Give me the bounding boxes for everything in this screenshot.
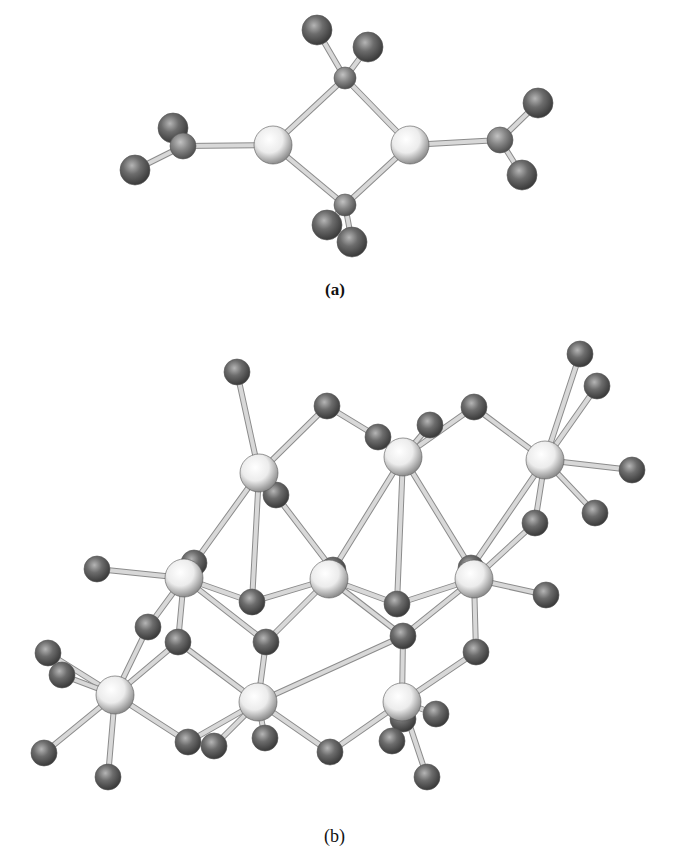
ligand-atom (567, 341, 593, 367)
metal-atom (383, 683, 421, 721)
ligand-atom (165, 629, 191, 655)
ligand-atom (379, 728, 405, 754)
metal-atom (384, 438, 422, 476)
ligand-atom (584, 373, 610, 399)
ligand-atom (84, 556, 110, 582)
ligand-atom (522, 510, 548, 536)
ligand-atom (390, 623, 416, 649)
metal-atom (391, 126, 429, 164)
caption-panel-b: (b) (324, 826, 345, 847)
atoms-a (120, 15, 553, 257)
metal-atom (239, 683, 277, 721)
metal-atom (526, 441, 564, 479)
ligand-atom (31, 740, 57, 766)
ligand-atom (582, 500, 608, 526)
ligand-atom (414, 764, 440, 790)
metal-atom (165, 559, 203, 597)
terminal-atom (507, 160, 537, 190)
bond-highlight (403, 457, 471, 568)
atoms-b (31, 341, 645, 790)
ligand-atom (135, 614, 161, 640)
center-atom (170, 133, 196, 159)
bridging-atom (334, 67, 356, 89)
ligand-atom (461, 394, 487, 420)
molecular-structure-figure (0, 0, 687, 855)
ligand-atom (619, 457, 645, 483)
ligand-atom (239, 589, 265, 615)
ligand-atom (95, 764, 121, 790)
terminal-atom (353, 32, 383, 62)
bond-highlight (258, 636, 403, 702)
ligand-atom (463, 639, 489, 665)
terminal-atom (337, 227, 367, 257)
caption-panel-a: (a) (325, 280, 345, 300)
terminal-atom (312, 210, 342, 240)
ligand-atom (417, 412, 443, 438)
ligand-atom (252, 725, 278, 751)
ligand-atom (317, 739, 343, 765)
metal-atom (254, 126, 292, 164)
structure-panel-a (120, 15, 553, 257)
bridging-atom (334, 194, 356, 216)
metal-atom (455, 560, 493, 598)
ligand-atom (175, 729, 201, 755)
metal-atom (310, 560, 348, 598)
metal-atom (96, 676, 134, 714)
ligand-atom (533, 582, 559, 608)
ligand-atom (314, 393, 340, 419)
terminal-atom (120, 155, 150, 185)
center-atom (487, 127, 513, 153)
ligand-atom (201, 733, 227, 759)
ligand-atom (384, 591, 410, 617)
ligand-atom (224, 359, 250, 385)
terminal-atom (523, 88, 553, 118)
ligand-atom (253, 629, 279, 655)
structure-panel-b (31, 341, 645, 790)
ligand-atom (35, 640, 61, 666)
ligand-atom (49, 662, 75, 688)
bond-highlight (333, 457, 403, 570)
metal-atom (240, 454, 278, 492)
terminal-atom (302, 15, 332, 45)
ligand-atom (423, 701, 449, 727)
